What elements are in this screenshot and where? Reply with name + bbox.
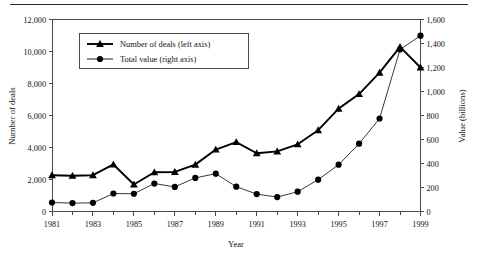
data-point — [151, 180, 157, 186]
right-tick-label: 0 — [427, 208, 431, 217]
data-point — [49, 199, 55, 205]
left-tick-label: 4,000 — [28, 144, 46, 153]
data-point — [336, 162, 342, 168]
data-point — [295, 189, 301, 195]
data-point — [417, 33, 423, 39]
data-point — [232, 138, 240, 145]
legend-label-1: Number of deals (left axis) — [120, 40, 210, 49]
data-point — [356, 141, 362, 147]
x-tick-label: 1999 — [412, 220, 428, 229]
data-point — [110, 161, 118, 168]
x-tick-label: 1985 — [126, 220, 142, 229]
right-tick-label: 1,600 — [427, 16, 445, 25]
x-tick-label: 1991 — [249, 220, 265, 229]
x-tick-label: 1993 — [289, 220, 305, 229]
left-tick-label: 8,000 — [28, 80, 46, 89]
data-point — [376, 115, 382, 121]
data-point — [274, 194, 280, 200]
data-point — [131, 191, 137, 197]
left-tick-label: 2,000 — [28, 176, 46, 185]
x-axis-ticks: 1981198319851987198919911993199519971999 — [44, 212, 429, 229]
legend-label-2: Total value (right axis) — [120, 55, 197, 64]
left-tick-label: 10,000 — [23, 48, 46, 57]
data-point — [90, 200, 96, 206]
left-axis-ticks: 02,0004,0006,0008,00010,00012,000 — [23, 16, 52, 217]
x-axis-title: Year — [228, 239, 244, 249]
right-tick-label: 1,200 — [427, 64, 445, 73]
data-point — [397, 46, 403, 52]
right-tick-label: 1,000 — [427, 88, 445, 97]
right-tick-label: 1,400 — [427, 40, 445, 49]
x-tick-label: 1981 — [44, 220, 60, 229]
x-tick-label: 1995 — [330, 220, 346, 229]
data-point — [172, 184, 178, 190]
y2-axis-title: Value (billions) — [457, 89, 467, 142]
x-tick-label: 1989 — [208, 220, 224, 229]
right-tick-label: 800 — [427, 112, 439, 121]
right-tick-label: 600 — [427, 136, 439, 145]
data-point — [233, 184, 239, 190]
chart-legend: Number of deals (left axis)Total value (… — [79, 33, 248, 68]
right-tick-label: 400 — [427, 160, 439, 169]
data-point — [315, 177, 321, 183]
data-point — [213, 171, 219, 177]
right-tick-label: 200 — [427, 184, 439, 193]
data-point — [69, 200, 75, 206]
left-tick-label: 12,000 — [23, 16, 46, 25]
x-tick-label: 1997 — [371, 220, 387, 229]
legend-marker-2 — [97, 56, 103, 62]
line-chart: 02,0004,0006,0008,00010,00012,000 020040… — [0, 0, 478, 253]
left-tick-label: 6,000 — [28, 112, 46, 121]
y-axis-title: Number of deals — [7, 87, 17, 145]
data-point — [110, 190, 116, 196]
data-point — [192, 175, 198, 181]
right-axis-ticks: 02004006008001,0001,2001,4001,600 — [421, 16, 445, 217]
chart-figure: 02,0004,0006,0008,00010,00012,000 020040… — [0, 0, 478, 253]
data-point — [254, 191, 260, 197]
x-tick-label: 1983 — [85, 220, 101, 229]
x-tick-label: 1987 — [167, 220, 183, 229]
left-tick-label: 0 — [42, 208, 46, 217]
